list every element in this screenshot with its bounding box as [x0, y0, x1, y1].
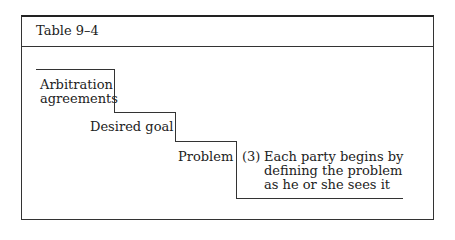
- note-line: Each party begins by: [264, 150, 403, 164]
- note-line: as he or she sees it: [264, 178, 403, 192]
- table-title: Table 9–4: [36, 23, 99, 38]
- step-1-line2: agreements: [40, 92, 112, 106]
- step-1-label: Arbitration agreements: [40, 78, 112, 106]
- step-3-label: Problem: [178, 150, 233, 164]
- step-2-label: Desired goal: [90, 120, 173, 134]
- note-line: defining the problem: [264, 164, 403, 178]
- note-text: Each party begins by defining the proble…: [264, 150, 403, 192]
- header-divider: [21, 46, 434, 47]
- step-line: [36, 69, 115, 70]
- step-line: [175, 112, 176, 142]
- step-line: [114, 112, 176, 113]
- step-line: [236, 141, 237, 199]
- step-line: [175, 141, 237, 142]
- step-line: [236, 198, 403, 199]
- step-1-line1: Arbitration: [40, 78, 112, 92]
- note-number: (3): [242, 150, 260, 164]
